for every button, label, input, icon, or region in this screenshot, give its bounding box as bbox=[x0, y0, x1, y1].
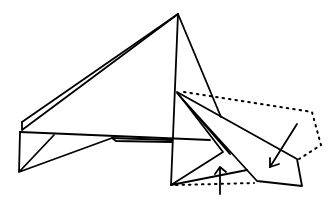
origami-diagram bbox=[0, 0, 332, 206]
dotted-bottom-outline bbox=[176, 183, 254, 185]
apex-vertical bbox=[171, 14, 178, 185]
top-left-edge-inner bbox=[22, 14, 178, 122]
fold-arrow-up-icon bbox=[215, 167, 226, 194]
top-left-edge bbox=[22, 14, 178, 130]
diagram-canvas bbox=[0, 0, 332, 206]
